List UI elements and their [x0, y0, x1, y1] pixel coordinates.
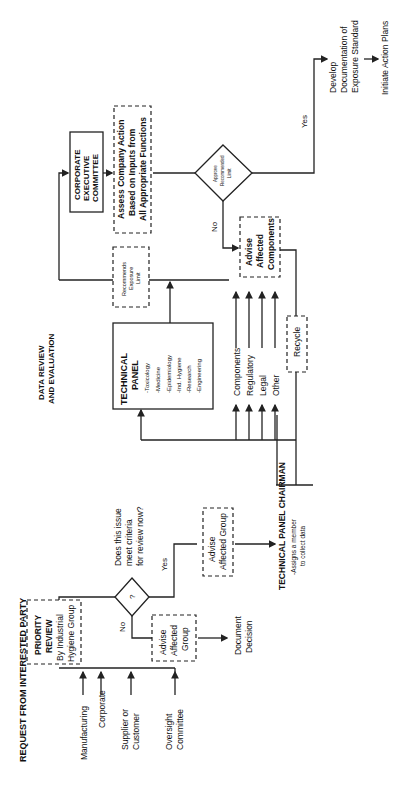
- technical-panel-chairman: TECHNICAL PANEL CHAIRMAN -Assigns a memb…: [277, 462, 306, 590]
- svg-text:REVIEW: REVIEW: [44, 618, 54, 653]
- svg-text:Limit: Limit: [227, 168, 232, 178]
- svg-text:meet criteria: meet criteria: [124, 519, 134, 566]
- svg-text:Regulatory: Regulatory: [245, 354, 255, 396]
- flowchart: REQUEST FROM INTERESTED PARTY DATA REVIE…: [0, 0, 395, 793]
- svg-text:By Industrial: By Industrial: [55, 614, 65, 661]
- svg-text:Advise: Advise: [207, 536, 217, 562]
- decision1-question: Does this issue meet criteria for review…: [113, 506, 145, 566]
- advise-affected-group-yes: Advise Affected Group: [203, 508, 233, 576]
- svg-text:Exposure: Exposure: [128, 267, 134, 290]
- svg-text:Affected: Affected: [169, 625, 179, 656]
- decision1-yes-label: Yes: [160, 558, 169, 571]
- svg-text:Exposure Standard: Exposure Standard: [350, 20, 360, 93]
- recommends-limit-box: Recommends Exposure Limit: [113, 247, 149, 307]
- priority-review-box: PRIORITY REVIEW By Industrial Hygiene Gr…: [27, 600, 81, 664]
- svg-text:-Medicine: -Medicine: [155, 366, 161, 393]
- svg-text:Advise: Advise: [158, 629, 168, 655]
- svg-text:Documentation of: Documentation of: [339, 26, 349, 93]
- svg-text:-Research: -Research: [186, 365, 192, 393]
- svg-text:Document: Document: [233, 616, 243, 655]
- svg-text:CORPORATE: CORPORATE: [73, 149, 82, 200]
- svg-text:Oversight: Oversight: [164, 713, 174, 750]
- svg-text:COMMITTEE: COMMITTEE: [91, 153, 100, 202]
- svg-text:Advise: Advise: [244, 238, 254, 266]
- svg-text:Committee: Committee: [175, 709, 185, 750]
- decision1-no-label: No: [118, 621, 127, 632]
- svg-text:PRIORITY: PRIORITY: [33, 615, 43, 655]
- decision-review-now: ?: [115, 578, 149, 616]
- svg-text:Decision: Decision: [244, 620, 254, 653]
- assess-company-action: Assess Company Action Based on Inputs fr…: [114, 106, 151, 233]
- recycle-box: Recycle: [287, 316, 307, 372]
- svg-text:AND EVALUATION: AND EVALUATION: [47, 333, 56, 404]
- advise-affected-group-no: Advise Affected Group: [152, 615, 196, 661]
- source-oversight: Oversight Committee: [164, 672, 185, 750]
- svg-text:PANEL: PANEL: [130, 360, 140, 390]
- svg-text:Manufacturing: Manufacturing: [79, 706, 89, 760]
- review-header: DATA REVIEW AND EVALUATION: [37, 333, 56, 404]
- svg-text:Components: Components: [266, 218, 276, 270]
- svg-text:Hygiene Group: Hygiene Group: [66, 605, 76, 662]
- svg-text:Legal: Legal: [258, 375, 268, 396]
- svg-text:Approve: Approve: [213, 165, 218, 182]
- svg-text:Supplier or: Supplier or: [120, 709, 130, 750]
- svg-text:EXECUTIVE: EXECUTIVE: [82, 155, 91, 201]
- svg-text:-Engineering: -Engineering: [196, 359, 202, 393]
- svg-text:-Toxicology: -Toxicology: [144, 363, 150, 393]
- svg-text:TECHNICAL: TECHNICAL: [119, 353, 129, 405]
- svg-text:Affected: Affected: [255, 234, 265, 268]
- svg-text:Affected Group: Affected Group: [218, 513, 228, 570]
- svg-text:-Assigns a member: -Assigns a member: [290, 518, 298, 575]
- svg-text:to collect data: to collect data: [299, 526, 306, 566]
- svg-text:Recycle: Recycle: [292, 326, 302, 357]
- svg-text:Develop: Develop: [328, 62, 338, 93]
- svg-text:Does this issue: Does this issue: [113, 508, 123, 566]
- technical-panel-box: TECHNICAL PANEL -Toxicology -Medicine -E…: [113, 323, 213, 409]
- svg-text:-Ind. Hygiene: -Ind. Hygiene: [176, 357, 182, 393]
- svg-text:Other: Other: [271, 375, 281, 396]
- source-corporate: Corporate: [97, 672, 107, 728]
- source-supplier: Supplier or Customer: [120, 672, 141, 750]
- decision2-no-label: No: [210, 221, 219, 232]
- svg-text:TECHNICAL PANEL CHAIRMAN: TECHNICAL PANEL CHAIRMAN: [277, 462, 287, 590]
- svg-text:-Epidemiology: -Epidemiology: [166, 355, 172, 393]
- svg-text:Customer: Customer: [131, 713, 141, 750]
- corporate-executive-committee: CORPORATE EXECUTIVE COMMITTEE: [70, 132, 103, 212]
- svg-text:Group: Group: [180, 627, 190, 651]
- advise-affected-components: Advise Affected Components: [240, 217, 280, 277]
- source-manufacturing: Manufacturing: [79, 672, 89, 760]
- initiate-action-plans: Initiate Action Plans: [380, 21, 390, 95]
- inputs-group: Components Regulatory Legal Other: [232, 292, 281, 440]
- svg-text:All Appropriate Functions: All Appropriate Functions: [138, 117, 148, 221]
- svg-text:Components: Components: [232, 348, 242, 396]
- develop-documentation: Develop Documentation of Exposure Standa…: [328, 20, 360, 93]
- svg-text:Corporate: Corporate: [97, 690, 107, 728]
- document-decision: Document Decision: [233, 616, 254, 655]
- decision2-yes-label: Yes: [300, 115, 309, 128]
- svg-text:Recommended: Recommended: [220, 155, 225, 186]
- svg-text:DATA REVIEW: DATA REVIEW: [37, 345, 46, 400]
- svg-text:Assess Company Action: Assess Company Action: [116, 120, 126, 219]
- svg-text:Limit: Limit: [135, 272, 141, 284]
- svg-text:Based on Inputs from: Based on Inputs from: [127, 128, 137, 216]
- svg-text:?: ?: [128, 594, 137, 599]
- decision-approve-limit: Approve Recommended Limit: [195, 145, 252, 201]
- svg-text:Recommends: Recommends: [121, 262, 127, 296]
- svg-text:for review now?: for review now?: [135, 506, 145, 566]
